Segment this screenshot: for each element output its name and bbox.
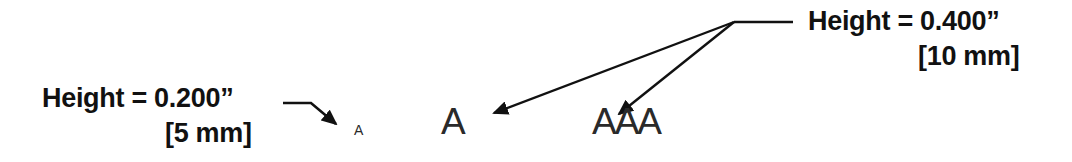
small-arrow-icon [283, 103, 336, 124]
large-height-metric-label: [10 mm] [918, 41, 1019, 71]
small-callout-leader [283, 103, 336, 124]
small-height-metric-label: [5 mm] [165, 118, 252, 148]
arrow-to-single-a-icon [494, 22, 734, 113]
large-height-label: Height = 0.400” [808, 6, 999, 36]
large-letter-triple-sample: AAA [592, 103, 660, 140]
small-letter-sample: A [354, 123, 363, 137]
large-letter-single-sample: A [441, 103, 466, 140]
small-height-label: Height = 0.200” [42, 83, 233, 113]
